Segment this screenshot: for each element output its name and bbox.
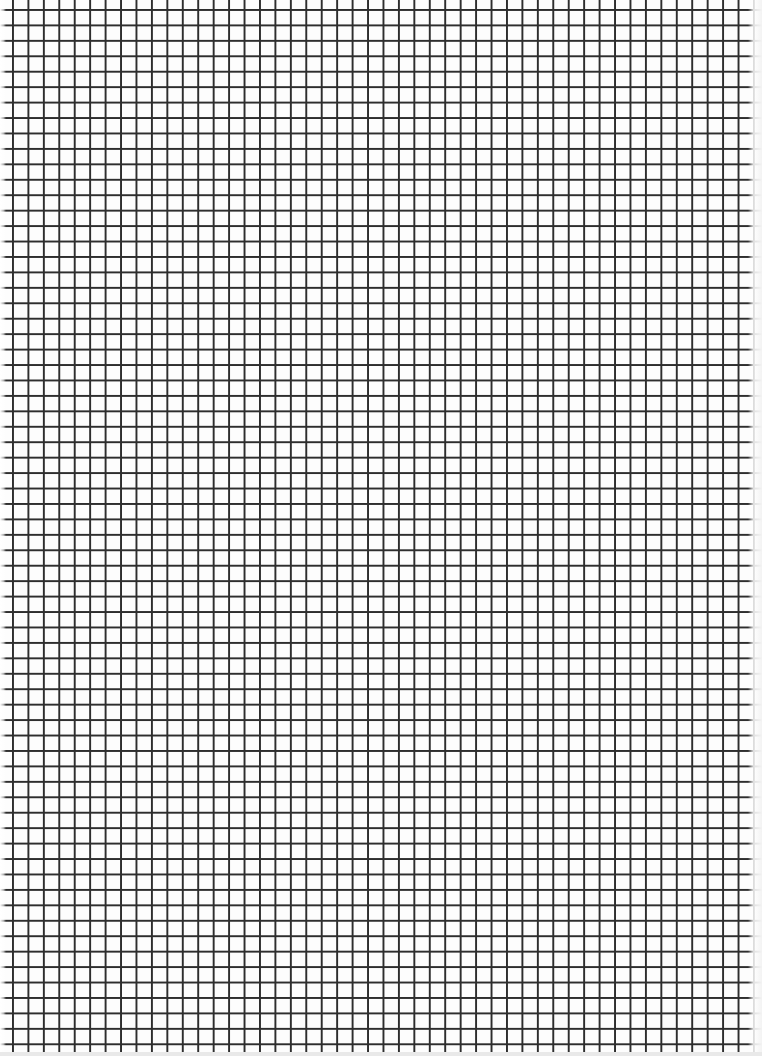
graph-paper-grid (0, 0, 762, 1056)
margin-print-text (750, 440, 760, 640)
paper-left-edge (0, 0, 6, 1056)
paper-bottom-edge (0, 1052, 762, 1056)
